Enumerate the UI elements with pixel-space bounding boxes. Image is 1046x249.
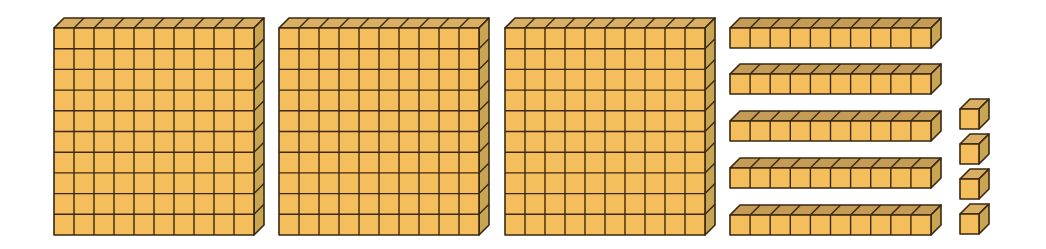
- front-face: [960, 214, 979, 234]
- tens-rods-group: [730, 18, 941, 235]
- ten-rod-5: [730, 205, 941, 235]
- hundred-flat-1: [54, 18, 264, 235]
- blocks-canvas: [0, 0, 1046, 249]
- base-ten-blocks-diagram: [0, 0, 1046, 249]
- hundreds-flats-group: [54, 18, 715, 235]
- hundred-flat-2: [279, 18, 489, 235]
- front-face: [960, 144, 979, 164]
- ten-rod-3: [730, 111, 941, 141]
- ones-units-group: [960, 99, 989, 234]
- front-face: [960, 179, 979, 199]
- one-unit-3: [960, 169, 989, 199]
- ten-rod-2: [730, 64, 941, 94]
- ten-rod-1: [730, 18, 941, 48]
- one-unit-4: [960, 204, 989, 234]
- one-unit-1: [960, 99, 989, 129]
- one-unit-2: [960, 134, 989, 164]
- front-face: [960, 109, 979, 129]
- ten-rod-4: [730, 158, 941, 188]
- hundred-flat-3: [505, 18, 715, 235]
